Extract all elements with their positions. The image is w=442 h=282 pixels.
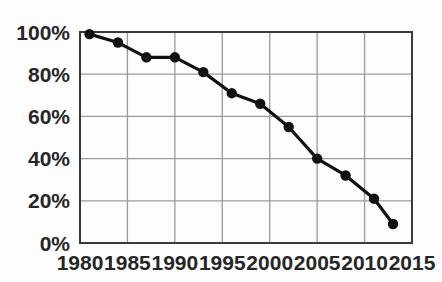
data-point-marker: [141, 52, 151, 62]
y-tick-label: 40%: [28, 147, 70, 170]
data-point-markers: [84, 29, 398, 229]
data-point-marker: [227, 88, 237, 98]
data-point-marker: [84, 29, 94, 39]
y-tick-label: 80%: [28, 63, 70, 86]
x-tick-label: 1990: [151, 251, 198, 274]
data-point-marker: [198, 67, 208, 77]
y-tick-label: 60%: [28, 105, 70, 128]
plot-frame: [80, 32, 412, 243]
x-tick-label: 1980: [57, 251, 104, 274]
y-tick-label: 100%: [16, 21, 70, 44]
data-point-marker: [388, 219, 398, 229]
x-tick-label: 2005: [294, 251, 341, 274]
x-tick-label: 2015: [389, 251, 436, 274]
chart-canvas: 0%20%40%60%80%100% 198019851990199520002…: [0, 0, 442, 282]
y-tick-label: 20%: [28, 189, 70, 212]
y-axis-tick-labels: 0%20%40%60%80%100%: [16, 21, 70, 255]
data-point-marker: [113, 37, 123, 47]
data-point-marker: [312, 153, 322, 163]
x-axis-tick-labels: 19801985199019952000200520102015: [57, 251, 436, 274]
data-point-marker: [283, 122, 293, 132]
x-tick-label: 2010: [341, 251, 388, 274]
x-tick-label: 1985: [104, 251, 151, 274]
data-point-marker: [170, 52, 180, 62]
data-point-marker: [340, 170, 350, 180]
x-tick-label: 1995: [199, 251, 246, 274]
data-point-marker: [255, 99, 265, 109]
data-series-line: [89, 34, 393, 224]
x-tick-label: 2000: [246, 251, 293, 274]
grid-lines: [80, 32, 412, 243]
data-point-marker: [369, 193, 379, 203]
line-chart-figure: 0%20%40%60%80%100% 198019851990199520002…: [0, 0, 442, 282]
